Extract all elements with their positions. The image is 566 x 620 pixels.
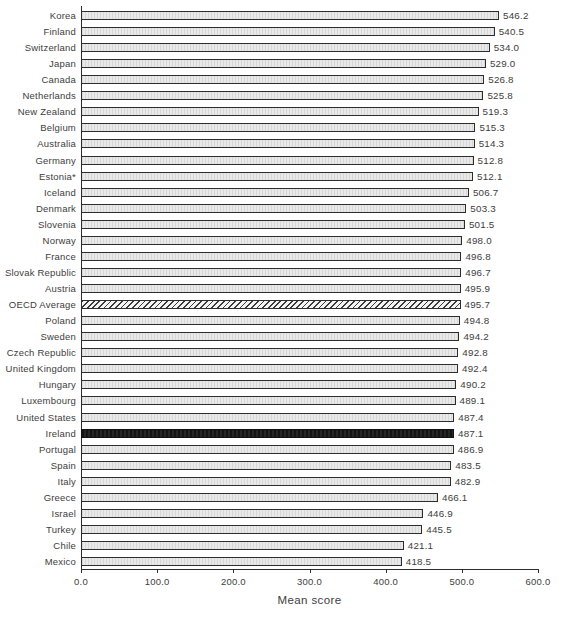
bar-row: Netherlands525.8 [0, 88, 566, 104]
bar [81, 284, 461, 293]
bar-row: Turkey445.5 [0, 522, 566, 538]
x-tick-mark [81, 569, 82, 573]
category-label: Israel [0, 506, 76, 522]
bar-chart: Korea546.2Finland540.5Switzerland534.0Ja… [0, 0, 566, 620]
bar-row: Switzerland534.0 [0, 40, 566, 56]
bar [81, 252, 461, 261]
value-label: 540.5 [499, 24, 525, 40]
value-label: 492.8 [462, 345, 488, 361]
value-label: 490.2 [460, 377, 486, 393]
category-label: New Zealand [0, 104, 76, 120]
value-label: 494.2 [463, 329, 489, 345]
bar-row: Spain483.5 [0, 458, 566, 474]
bar [81, 220, 465, 229]
x-tick-mark [157, 569, 158, 573]
value-label: 492.4 [462, 361, 488, 377]
bar [81, 27, 495, 36]
category-label: Norway [0, 233, 76, 249]
category-label: Hungary [0, 377, 76, 393]
bar [81, 316, 460, 325]
bar [81, 461, 451, 470]
category-label: Luxembourg [0, 393, 76, 409]
value-label: 506.7 [473, 185, 499, 201]
bar-row: Chile421.1 [0, 538, 566, 554]
value-label: 526.8 [488, 72, 514, 88]
category-label: Portugal [0, 442, 76, 458]
category-label: Korea [0, 8, 76, 24]
value-label: 515.3 [479, 120, 505, 136]
value-label: 421.1 [408, 538, 434, 554]
x-tick-mark [462, 569, 463, 573]
x-tick-label: 200.0 [211, 576, 255, 587]
bar-row: Iceland506.7 [0, 185, 566, 201]
bar-row: Slovak Republic496.7 [0, 265, 566, 281]
bar-row: Canada526.8 [0, 72, 566, 88]
category-label: United States [0, 410, 76, 426]
bar [81, 91, 483, 100]
value-label: 446.9 [427, 506, 453, 522]
value-label: 486.9 [458, 442, 484, 458]
value-label: 494.8 [464, 313, 490, 329]
category-label: Poland [0, 313, 76, 329]
bar [81, 380, 456, 389]
category-label: Switzerland [0, 40, 76, 56]
bar [81, 43, 490, 52]
category-label: Estonia* [0, 169, 76, 185]
bar-row: Finland540.5 [0, 24, 566, 40]
bar-row: Italy482.9 [0, 474, 566, 490]
value-label: 514.3 [479, 136, 505, 152]
bar-row: Luxembourg489.1 [0, 393, 566, 409]
bar-row: Germany512.8 [0, 153, 566, 169]
value-label: 501.5 [469, 217, 495, 233]
x-tick-label: 600.0 [516, 576, 560, 587]
x-tick-mark [233, 569, 234, 573]
value-label: 487.1 [458, 426, 484, 442]
bar [81, 493, 438, 502]
bar [81, 188, 469, 197]
bar-row: Australia514.3 [0, 136, 566, 152]
bar-row: Hungary490.2 [0, 377, 566, 393]
category-label: Belgium [0, 120, 76, 136]
bar [81, 123, 475, 132]
bar-row: Denmark503.3 [0, 201, 566, 217]
value-label: 496.8 [465, 249, 491, 265]
bar-row: New Zealand519.3 [0, 104, 566, 120]
category-label: Czech Republic [0, 345, 76, 361]
bar [81, 139, 475, 148]
category-label: Australia [0, 136, 76, 152]
category-label: Iceland [0, 185, 76, 201]
bar [81, 364, 458, 373]
bar [81, 107, 479, 116]
category-label: Slovenia [0, 217, 76, 233]
x-tick-label: 100.0 [135, 576, 179, 587]
value-label: 466.1 [442, 490, 468, 506]
bar [81, 396, 456, 405]
bar [81, 525, 422, 534]
value-label: 534.0 [494, 40, 520, 56]
bar-row: United Kingdom492.4 [0, 361, 566, 377]
bar-row: Mexico418.5 [0, 554, 566, 570]
bar [81, 172, 473, 181]
bar [81, 75, 484, 84]
value-label: 498.0 [466, 233, 492, 249]
bar-row: Estonia*512.1 [0, 169, 566, 185]
bar [81, 156, 474, 165]
value-label: 445.5 [426, 522, 452, 538]
bar-row: France496.8 [0, 249, 566, 265]
bar-row: United States487.4 [0, 410, 566, 426]
x-axis-title: Mean score [81, 594, 538, 606]
category-label: Finland [0, 24, 76, 40]
value-label: 495.9 [465, 281, 491, 297]
x-tick-label: 500.0 [440, 576, 484, 587]
bar-row: Ireland487.1 [0, 426, 566, 442]
category-label: Greece [0, 490, 76, 506]
bar [81, 445, 454, 454]
bar-row: OECD Average495.7 [0, 297, 566, 313]
category-label: Ireland [0, 426, 76, 442]
category-label: Mexico [0, 554, 76, 570]
category-label: Italy [0, 474, 76, 490]
value-label: 525.8 [487, 88, 513, 104]
category-label: Netherlands [0, 88, 76, 104]
bar-row: Slovenia501.5 [0, 217, 566, 233]
value-label: 512.1 [477, 169, 503, 185]
